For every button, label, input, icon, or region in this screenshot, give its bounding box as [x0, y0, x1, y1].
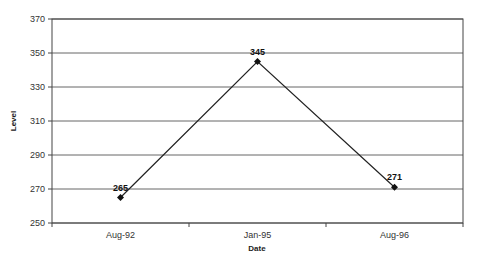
line-chart: 250270290310330350370 Aug-92Jan-95Aug-96… [0, 0, 482, 271]
x-axis-title: Date [248, 244, 266, 253]
y-tick-label: 250 [30, 218, 45, 228]
data-markers [117, 58, 398, 201]
x-tick-label: Jan-95 [244, 230, 272, 240]
series-line [121, 62, 395, 198]
y-tick-label: 350 [30, 48, 45, 58]
x-tick-label: Aug-92 [106, 230, 135, 240]
y-tick-label: 330 [30, 82, 45, 92]
data-label: 345 [250, 47, 265, 57]
y-tick-label: 290 [30, 150, 45, 160]
y-tick-label: 270 [30, 184, 45, 194]
y-tick-label: 310 [30, 116, 45, 126]
data-labels: 265345271 [113, 47, 402, 193]
x-tick-label: Aug-96 [380, 230, 409, 240]
data-label: 265 [113, 183, 128, 193]
data-label: 271 [387, 172, 402, 182]
x-axis-ticks: Aug-92Jan-95Aug-96 [52, 223, 463, 240]
y-axis-ticks: 250270290310330350370 [30, 14, 52, 228]
y-axis-title: Level [9, 111, 18, 131]
y-tick-label: 370 [30, 14, 45, 24]
